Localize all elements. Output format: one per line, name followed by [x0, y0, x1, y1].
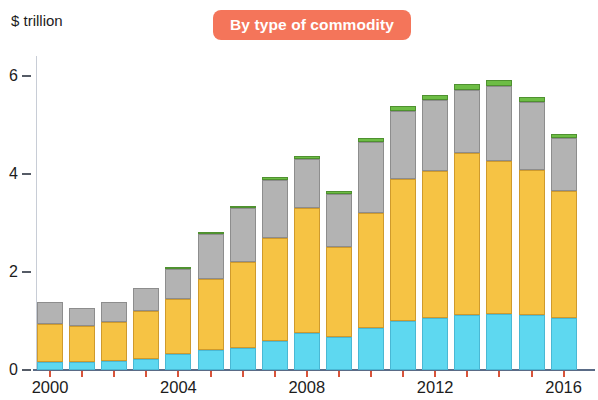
bar-segment-energy: [133, 311, 159, 359]
bar-2013: [454, 84, 480, 370]
bar-segment-minerals-and-metals: [101, 302, 127, 322]
bar-segment-minerals-and-metals: [551, 138, 577, 191]
bar-2012: [422, 95, 448, 370]
y-axis-tick-mark: [22, 173, 31, 175]
bar-segment-agricultural: [486, 314, 512, 370]
bar-segment-agricultural: [294, 333, 320, 370]
bar-2016: [551, 134, 577, 370]
bar-segment-agricultural: [133, 359, 159, 370]
bar-2009: [326, 191, 352, 370]
bar-segment-minerals-and-metals: [165, 269, 191, 298]
y-axis-tick-mark: [22, 271, 31, 273]
x-axis-tick-mark: [531, 371, 533, 377]
bar-2002: [101, 302, 127, 370]
bar-2014: [486, 80, 512, 370]
bar-segment-agricultural: [262, 341, 288, 370]
bar-segment-minerals-and-metals: [390, 111, 416, 179]
bar-segment-minerals-and-metals: [37, 302, 63, 324]
bar-segment-agricultural: [69, 362, 95, 370]
bar-segment-energy: [294, 208, 320, 333]
x-axis-tick-mark: [402, 371, 404, 377]
bar-segment-agricultural: [422, 318, 448, 370]
bar-segment-energy: [230, 262, 256, 348]
bar-segment-energy: [486, 161, 512, 314]
y-axis-tick-mark: [22, 369, 31, 371]
x-axis-tick-label: 2000: [18, 378, 82, 397]
bar-segment-agricultural: [37, 362, 63, 370]
x-axis-tick-mark: [81, 371, 83, 377]
chart-figure: By type of commodity $ trillion 0246 200…: [0, 0, 598, 400]
x-axis-tick-mark: [177, 371, 179, 377]
bar-segment-energy: [551, 191, 577, 319]
y-axis-tick-mark: [22, 75, 31, 77]
bar-2001: [69, 308, 95, 370]
y-axis-tick-label: 6: [0, 69, 18, 83]
x-axis-tick-mark: [434, 371, 436, 377]
plot-area: [37, 56, 593, 370]
bar-2004: [165, 267, 191, 370]
bar-segment-agricultural: [230, 348, 256, 370]
bar-segment-minerals-and-metals: [326, 194, 352, 247]
x-axis-tick-mark: [338, 371, 340, 377]
bar-segment-energy: [198, 279, 224, 350]
x-axis-tick-mark: [210, 371, 212, 377]
y-axis-unit-label: $ trillion: [11, 12, 63, 29]
bar-segment-agricultural: [358, 328, 384, 370]
bar-2010: [358, 138, 384, 370]
bar-segment-minerals-and-metals: [519, 102, 545, 171]
y-axis-tick-label: 4: [0, 167, 18, 181]
bar-segment-agricultural: [198, 350, 224, 370]
bar-2005: [198, 232, 224, 370]
bar-segment-minerals-and-metals: [454, 90, 480, 153]
bar-segment-minerals-and-metals: [422, 100, 448, 171]
bar-segment-minerals-and-metals: [230, 208, 256, 262]
bar-segment-agricultural: [519, 315, 545, 370]
y-axis-tick: 6: [0, 69, 40, 83]
x-axis-tick-label: 2004: [146, 378, 210, 397]
bar-2011: [390, 106, 416, 370]
bar-segment-energy: [262, 238, 288, 341]
bar-segment-minerals-and-metals: [69, 308, 95, 327]
x-axis-tick-mark: [563, 371, 565, 377]
bar-segment-agricultural: [165, 354, 191, 370]
bar-segment-energy: [69, 326, 95, 362]
x-axis-tick-mark: [370, 371, 372, 377]
bar-segment-energy: [519, 170, 545, 315]
bar-segment-minerals-and-metals: [358, 142, 384, 213]
chart-title-text: By type of commodity: [230, 16, 394, 34]
bar-2006: [230, 206, 256, 370]
bar-segment-energy: [326, 247, 352, 336]
bar-2008: [294, 156, 320, 370]
x-axis-tick-mark: [145, 371, 147, 377]
y-axis-tick-label: 0: [0, 363, 18, 377]
bar-segment-minerals-and-metals: [133, 288, 159, 312]
bar-segment-agricultural: [454, 315, 480, 370]
bar-segment-agricultural: [551, 318, 577, 370]
x-axis-tick-mark: [306, 371, 308, 377]
x-axis-tick-mark: [466, 371, 468, 377]
bar-2000: [37, 302, 63, 370]
bar-2007: [262, 177, 288, 370]
bar-segment-energy: [390, 179, 416, 321]
bar-segment-energy: [101, 322, 127, 361]
y-axis-tick: 4: [0, 167, 40, 181]
x-axis-tick-mark: [242, 371, 244, 377]
y-axis-tick: 2: [0, 265, 40, 279]
bar-segment-minerals-and-metals: [198, 234, 224, 279]
bar-segment-energy: [165, 299, 191, 354]
bar-segment-energy: [358, 213, 384, 328]
x-axis-tick-mark: [498, 371, 500, 377]
x-axis-tick-label: 2012: [403, 378, 467, 397]
bar-segment-agricultural: [101, 361, 127, 370]
bar-segment-agricultural: [326, 337, 352, 370]
bar-segment-energy: [422, 171, 448, 318]
bar-segment-energy: [454, 153, 480, 315]
x-axis-tick-label: 2008: [275, 378, 339, 397]
x-axis-tick-mark: [113, 371, 115, 377]
bar-segment-energy: [37, 324, 63, 362]
bar-segment-minerals-and-metals: [486, 86, 512, 161]
bar-2015: [519, 97, 545, 370]
y-axis-tick-label: 2: [0, 265, 18, 279]
bar-segment-minerals-and-metals: [262, 180, 288, 238]
bar-2003: [133, 288, 159, 370]
